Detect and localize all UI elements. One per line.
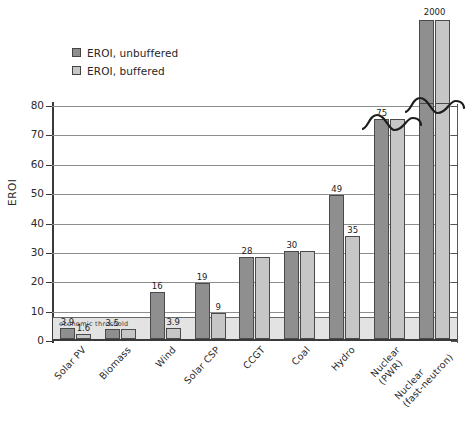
y-tick-label-80: 80 — [18, 99, 44, 111]
category-label: Solar CSP — [182, 344, 222, 386]
category-label: CCGT — [241, 344, 267, 371]
bar-buffered — [390, 119, 405, 339]
category-label: Coal — [289, 344, 312, 367]
y-tick-label-60: 60 — [18, 158, 44, 170]
bar-group — [412, 104, 457, 339]
bar-unbuffered — [284, 251, 299, 339]
bar-buffered — [76, 334, 91, 339]
y-tick-80 — [46, 106, 52, 107]
y-tick-label-10: 10 — [18, 305, 44, 317]
y-tick-label-30: 30 — [18, 246, 44, 258]
bar-value-label: 19 — [189, 272, 216, 282]
category-label-line: CCGT — [241, 344, 267, 371]
bar-buffered — [255, 257, 270, 339]
legend-item-unbuffered: EROI, unbuffered — [72, 45, 178, 60]
y-tick-label-20: 20 — [18, 275, 44, 287]
bar-value-label: 75 — [368, 108, 395, 118]
bar-unbuffered — [329, 195, 344, 339]
bar-series-layer: 3.91.63.5163.91992830493575 — [53, 104, 457, 339]
chart-legend: EROI, unbuffered EROI, buffered — [72, 45, 178, 81]
x-axis-category-labels: Solar PVBiomassWindSolar CSPCCGTCoalHydr… — [52, 344, 458, 426]
y-tick-0 — [46, 341, 52, 342]
bar-group: 3.5 — [98, 104, 143, 339]
bar-unbuffered — [374, 119, 389, 339]
legend-swatch-unbuffered — [72, 48, 81, 57]
legend-label-buffered: EROI, buffered — [87, 65, 165, 77]
bar-buffered — [211, 313, 226, 339]
legend-swatch-buffered — [72, 66, 81, 75]
bar-buffered — [166, 328, 181, 339]
category-label-line: Wind — [153, 344, 178, 370]
bar-group: 3.91.6 — [53, 104, 98, 339]
y-tick-label-70: 70 — [18, 128, 44, 140]
bar-value-label: 28 — [233, 246, 260, 256]
y-tick-10 — [46, 312, 52, 313]
bar-group: 75 — [367, 104, 412, 339]
bar-value-label: 35 — [339, 225, 366, 235]
category-label-line: Coal — [289, 344, 312, 367]
y-tick-20 — [46, 282, 52, 283]
bar-value-label: 1.6 — [70, 323, 97, 333]
bar-group: 28 — [233, 104, 278, 339]
y-tick-label-40: 40 — [18, 217, 44, 229]
y-tick-40 — [46, 224, 52, 225]
plot-area: 01020304050607080 economic threshold 3.9… — [52, 104, 458, 341]
right-tick-0 — [451, 341, 458, 342]
bar-value-label-2000: 2000 — [411, 7, 458, 17]
category-label-line: Hydro — [329, 344, 357, 373]
bar-unbuffered — [105, 329, 120, 339]
bar-group: 199 — [188, 104, 233, 339]
category-label-line: Biomass — [97, 344, 133, 382]
bar-value-label: 3.9 — [160, 317, 187, 327]
bar-group: 4935 — [322, 104, 367, 339]
category-label: Solar PV — [52, 344, 88, 382]
bar-group: 30 — [277, 104, 322, 339]
bar-buffered — [345, 236, 360, 339]
y-tick-50 — [46, 194, 52, 195]
bar-buffered — [435, 98, 450, 339]
y-tick-label-50: 50 — [18, 187, 44, 199]
y-tick-60 — [46, 165, 52, 166]
bar-value-label: 9 — [205, 302, 232, 312]
bar-unbuffered — [239, 257, 254, 339]
category-label-line: Solar CSP — [182, 344, 222, 386]
bar-value-label: 3.5 — [99, 318, 126, 328]
y-axis-title: EROI — [6, 179, 18, 206]
y-tick-30 — [46, 253, 52, 254]
bar-value-label: 30 — [278, 240, 305, 250]
x-axis-line — [52, 339, 458, 341]
category-label: Wind — [153, 344, 178, 370]
bar-buffered — [300, 251, 315, 339]
category-label-line: Solar PV — [52, 344, 88, 382]
bar-unbuffered — [150, 292, 165, 339]
category-label: Biomass — [97, 344, 133, 382]
bar-unbuffered — [419, 98, 434, 339]
y-tick-label-0: 0 — [18, 334, 44, 346]
bar-value-label: 16 — [144, 281, 171, 291]
eroi-bar-chart: EROI, unbuffered EROI, buffered EROI 010… — [0, 0, 471, 426]
bar-buffered — [121, 329, 136, 339]
bar-value-label: 49 — [323, 184, 350, 194]
legend-label-unbuffered: EROI, unbuffered — [87, 47, 178, 59]
category-label: Hydro — [329, 344, 357, 373]
bar-above-break-unbuffered — [419, 20, 434, 104]
bar-above-break-buffered — [435, 20, 450, 104]
legend-item-buffered: EROI, buffered — [72, 63, 178, 78]
y-tick-70 — [46, 135, 52, 136]
bar-group: 163.9 — [143, 104, 188, 339]
